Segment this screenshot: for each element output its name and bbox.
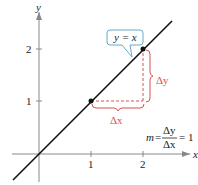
axes <box>12 12 190 182</box>
slope-denominator: Δx <box>163 138 176 150</box>
slope-m: m <box>146 131 154 143</box>
point-2-2 <box>141 47 146 52</box>
slope-numerator: Δy <box>163 124 176 136</box>
point-1-1 <box>89 99 94 104</box>
x-axis-arrow-icon <box>182 151 190 157</box>
equation-callout: y = x <box>107 30 143 57</box>
y-tick-1: 1 <box>26 95 32 107</box>
x-tick-1: 1 <box>88 158 94 170</box>
delta-y-brace <box>146 50 153 102</box>
delta-x-label: Δx <box>110 114 123 126</box>
slope-diagram: x y 1 2 1 2 Δx Δy y = x m = Δy Δx = 1 <box>0 0 198 185</box>
equals-sign: = <box>155 131 161 143</box>
callout-text: y = x <box>113 31 137 43</box>
y-axis-label: y <box>35 1 41 13</box>
y-tick-2: 2 <box>26 43 32 55</box>
delta-y-label: Δy <box>156 74 169 86</box>
y-axis-arrow-icon <box>36 12 42 20</box>
x-axis-label: x <box>192 148 198 160</box>
x-tick-2: 2 <box>140 158 146 170</box>
slope-value: = 1 <box>179 131 193 143</box>
slope-formula: m = Δy Δx = 1 <box>146 124 193 150</box>
delta-x-brace <box>92 104 144 111</box>
